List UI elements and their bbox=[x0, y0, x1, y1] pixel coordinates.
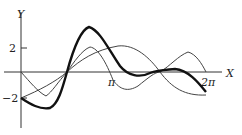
chart: Y X 2 −2 π 2π bbox=[0, 0, 242, 135]
y-tick-label-2: 2 bbox=[9, 42, 16, 55]
x-axis-label: X bbox=[225, 67, 235, 80]
y-tick-label-neg2: −2 bbox=[2, 92, 18, 105]
y-axis-label: Y bbox=[17, 8, 26, 21]
series-thick bbox=[21, 27, 206, 108]
